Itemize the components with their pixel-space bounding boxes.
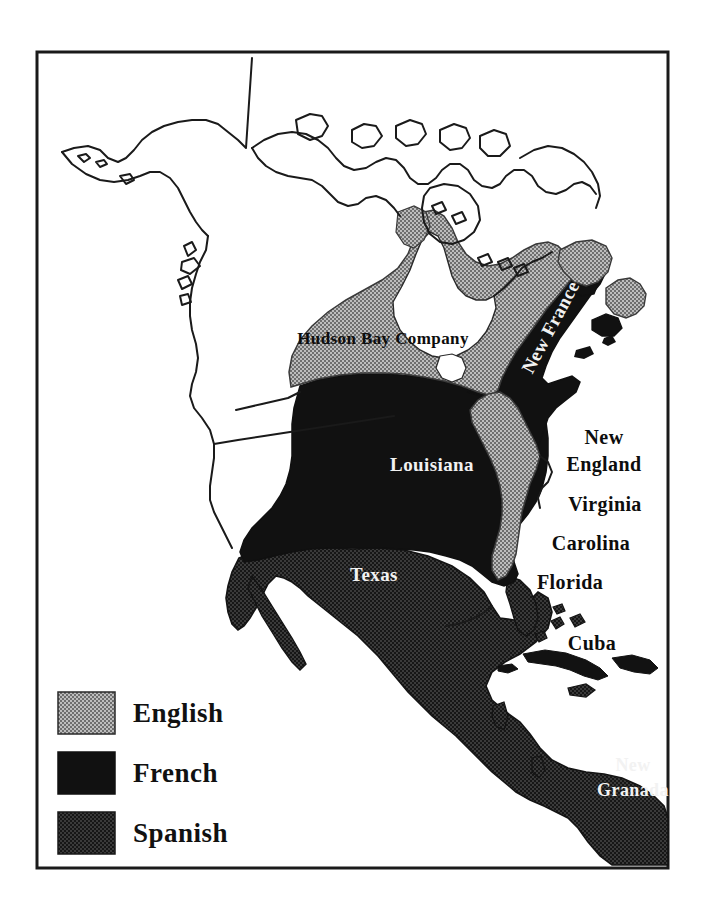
map-canvas: Hudson Bay Company New France Louisiana …: [0, 0, 703, 915]
label-virginia: Virginia: [568, 493, 642, 516]
label-louisiana: Louisiana: [390, 454, 474, 475]
spanish-swatch: [58, 812, 115, 854]
label-new-england-line1: New: [585, 426, 624, 448]
label-new-england-line2: England: [566, 453, 641, 476]
historical-map-figure: Hudson Bay Company New France Louisiana …: [0, 0, 703, 915]
legend-label-english: English: [133, 698, 224, 728]
legend-label-french: French: [133, 758, 218, 788]
label-hudson-bay-company: Hudson Bay Company: [297, 329, 469, 348]
english-swatch: [58, 692, 115, 734]
label-new-granada-line1: New: [615, 755, 650, 775]
legend-label-spanish: Spanish: [133, 818, 228, 848]
label-new-granada-line2: Granada: [597, 780, 669, 800]
map-legend: English French Spanish: [58, 692, 228, 854]
label-carolina: Carolina: [552, 532, 630, 554]
label-cuba: Cuba: [568, 632, 616, 654]
french-swatch: [58, 752, 115, 794]
label-texas: Texas: [350, 564, 398, 585]
label-florida: Florida: [537, 571, 603, 593]
